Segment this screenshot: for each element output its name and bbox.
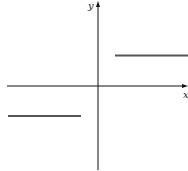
y-axis-label: y — [87, 0, 94, 11]
y-axis-arrow-icon — [96, 1, 100, 7]
x-axis-arrow-icon — [182, 84, 188, 88]
x-axis-label: x — [183, 89, 188, 100]
step-function-plot: y x — [0, 0, 188, 171]
